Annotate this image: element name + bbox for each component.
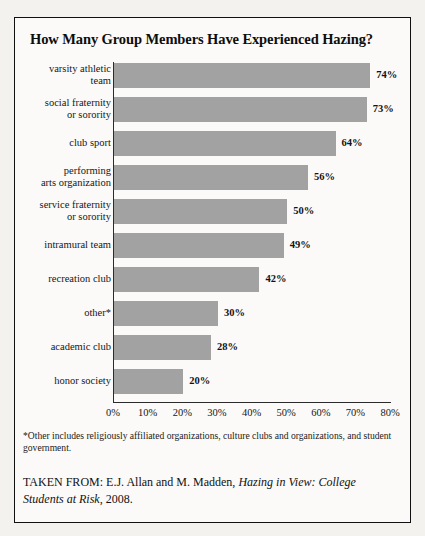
bar: [114, 369, 183, 394]
bar: [114, 233, 284, 258]
bar-category-label: performingarts organization: [15, 165, 111, 189]
bar-category-label: academic club: [15, 341, 111, 353]
bar-value-label: 28%: [217, 341, 238, 352]
bar: [114, 63, 370, 88]
attribution-prefix: TAKEN FROM: E.J. Allan and M. Madden,: [23, 475, 238, 489]
x-axis-tick-label: 10%: [138, 407, 157, 418]
bar: [114, 335, 211, 360]
bar-value-label: 30%: [224, 307, 245, 318]
bar: [114, 97, 367, 122]
bar-row: recreation club42%: [15, 267, 410, 292]
x-axis-tick-label: 0%: [106, 407, 120, 418]
bar-row: honor society20%: [15, 369, 410, 394]
bar: [114, 165, 308, 190]
bar-value-label: 50%: [293, 205, 314, 216]
bar-value-label: 64%: [342, 137, 363, 148]
bar-row: service fraternityor sorority50%: [15, 199, 410, 224]
source-attribution: TAKEN FROM: E.J. Allan and M. Madden, Ha…: [23, 474, 395, 508]
bar-category-label: service fraternityor sorority: [15, 199, 111, 223]
attribution-suffix: , 2008.: [100, 492, 133, 506]
bar-chart: varsity athleticteam74%social fraternity…: [15, 62, 410, 417]
bar-row: varsity athleticteam74%: [15, 63, 410, 88]
bar-value-label: 20%: [189, 375, 210, 386]
bar-row: intramural team49%: [15, 233, 410, 258]
footnote: *Other includes religiously affiliated o…: [23, 430, 401, 455]
bar: [114, 301, 218, 326]
bar-category-label: recreation club: [15, 273, 111, 285]
bar-category-label: other*: [15, 307, 111, 319]
bar-row: social fraternityor sorority73%: [15, 97, 410, 122]
x-axis-tick-label: 70%: [346, 407, 365, 418]
bar: [114, 131, 336, 156]
bar-value-label: 74%: [376, 69, 397, 80]
x-axis-tick-label: 20%: [173, 407, 192, 418]
figure-panel: How Many Group Members Have Experienced …: [14, 17, 411, 523]
bar-value-label: 56%: [314, 171, 335, 182]
bar-value-label: 42%: [265, 273, 286, 284]
bar-value-label: 73%: [373, 103, 394, 114]
x-axis-tick-label: 50%: [277, 407, 296, 418]
bar: [114, 267, 259, 292]
chart-title: How Many Group Members Have Experienced …: [30, 31, 395, 48]
bar-row: club sport64%: [15, 131, 410, 156]
bar-row: performingarts organization56%: [15, 165, 410, 190]
bar-row: other*30%: [15, 301, 410, 326]
bar-category-label: social fraternityor sorority: [15, 97, 111, 121]
x-axis-tick-label: 30%: [207, 407, 226, 418]
bar-row: academic club28%: [15, 335, 410, 360]
x-axis-tick-label: 80%: [380, 407, 399, 418]
bar-value-label: 49%: [290, 239, 311, 250]
x-axis-tick-label: 60%: [311, 407, 330, 418]
bar-category-label: honor society: [15, 375, 111, 387]
bar-category-label: varsity athleticteam: [15, 63, 111, 87]
bar-category-label: club sport: [15, 137, 111, 149]
bar: [114, 199, 287, 224]
bar-category-label: intramural team: [15, 239, 111, 251]
x-axis-line: [113, 402, 391, 403]
x-axis-tick-label: 40%: [242, 407, 261, 418]
